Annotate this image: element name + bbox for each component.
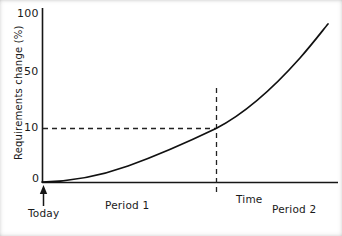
x-axis-title: Time bbox=[236, 194, 263, 205]
today-label: Today bbox=[28, 208, 59, 219]
period-1-label: Period 1 bbox=[105, 200, 149, 211]
today-arrow-icon bbox=[40, 185, 47, 206]
requirements-change-curve bbox=[42, 24, 328, 182]
requirements-change-chart: Requirements change (%) 100 50 10 0 Toda… bbox=[0, 0, 342, 236]
plot-area bbox=[0, 0, 342, 236]
period-2-label: Period 2 bbox=[272, 204, 316, 215]
